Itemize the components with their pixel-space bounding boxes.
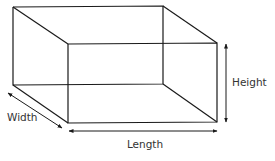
height-dimension: Height	[226, 44, 267, 122]
front-face	[68, 43, 217, 123]
back-face	[13, 6, 163, 85]
height-label: Height	[232, 76, 267, 88]
box-diagram: Width Height Length	[0, 0, 275, 161]
length-dimension: Length	[69, 131, 217, 150]
connecting-edges	[13, 6, 217, 123]
width-label: Width	[7, 111, 38, 123]
length-label: Length	[127, 138, 163, 150]
width-dimension: Width	[7, 93, 62, 128]
